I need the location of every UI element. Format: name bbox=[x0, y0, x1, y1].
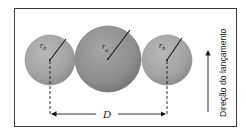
spheres-diagram: rb ra rb D bbox=[0, 0, 246, 134]
middle-sphere: ra bbox=[75, 26, 141, 92]
launch-direction-label: Direção do lançamento bbox=[218, 29, 228, 117]
distance-label: D bbox=[102, 108, 111, 120]
